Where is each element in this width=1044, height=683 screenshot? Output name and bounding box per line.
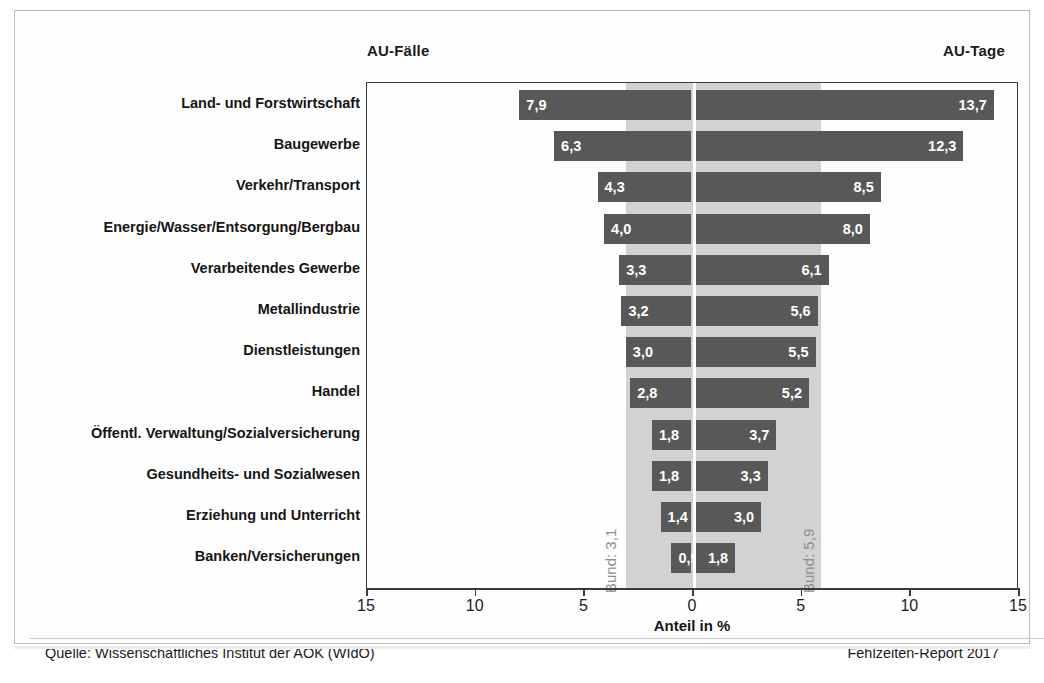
bar-au-faelle: 4,3	[598, 172, 691, 202]
bar-value-label: 3,3	[626, 262, 646, 278]
bar-value-label: 13,7	[959, 97, 987, 113]
bar-au-tage: 8,5	[696, 172, 881, 202]
bar-au-tage: 5,2	[696, 378, 809, 408]
bar-au-faelle: 1,8	[652, 461, 691, 491]
bar-au-tage: 12,3	[696, 131, 963, 161]
bar-value-label: 3,0	[633, 344, 653, 360]
chart-row: 3,25,6	[367, 296, 1017, 326]
x-axis-tick-label: 0	[688, 597, 697, 615]
bar-au-tage: 3,0	[696, 502, 761, 532]
x-axis-tick-label: 5	[796, 597, 805, 615]
bar-value-label: 3,2	[628, 303, 648, 319]
category-label: Öffentl. Verwaltung/Sozialversicherung	[15, 425, 360, 441]
bar-au-faelle: 2,8	[630, 378, 691, 408]
chart-row: 3,05,5	[367, 337, 1017, 367]
bar-au-faelle: 1,8	[652, 420, 691, 450]
x-axis-tick-label: 10	[466, 597, 484, 615]
bar-value-label: 3,3	[741, 468, 761, 484]
bar-au-tage: 1,8	[696, 543, 735, 573]
column-header-au-tage: AU-Tage	[943, 42, 1005, 59]
bar-value-label: 7,9	[526, 97, 546, 113]
x-axis-tick	[801, 588, 803, 596]
bund-caption-right: Bund: 5,9	[800, 529, 817, 593]
bar-au-faelle: 0,9	[671, 543, 691, 573]
bar-value-label: 5,5	[788, 344, 808, 360]
bar-value-label: 6,1	[801, 262, 821, 278]
bar-au-tage: 5,6	[696, 296, 818, 326]
category-label: Metallindustrie	[15, 301, 360, 317]
chart-row: 4,38,5	[367, 172, 1017, 202]
bar-au-faelle: 3,2	[621, 296, 691, 326]
bar-value-label: 12,3	[928, 138, 956, 154]
category-label: Land- und Forstwirtschaft	[15, 95, 360, 111]
bar-value-label: 4,3	[605, 179, 625, 195]
category-label: Handel	[15, 383, 360, 399]
x-axis-tick-label: 15	[1009, 597, 1027, 615]
x-axis-tick	[692, 588, 694, 596]
figure-frame: AU-Fälle AU-Tage Land- und Forstwirtscha…	[14, 10, 1030, 644]
bar-au-faelle: 3,0	[626, 337, 691, 367]
chart-row: 1,43,0	[367, 502, 1017, 532]
category-label: Gesundheits- und Sozialwesen	[15, 466, 360, 482]
bar-value-label: 1,8	[659, 468, 679, 484]
bar-au-tage: 5,5	[696, 337, 816, 367]
category-label: Banken/Versicherungen	[15, 548, 360, 564]
zero-axis-line	[693, 83, 696, 588]
bar-au-faelle: 4,0	[604, 214, 691, 244]
footer-divider	[30, 638, 1044, 639]
x-axis-title: Anteil in %	[366, 617, 1018, 634]
category-label: Erziehung und Unterricht	[15, 507, 360, 523]
chart-row: 6,312,3	[367, 131, 1017, 161]
bar-au-tage: 3,7	[696, 420, 776, 450]
x-axis-tick-label: 5	[579, 597, 588, 615]
chart-row: 2,85,2	[367, 378, 1017, 408]
chart-row: 4,08,0	[367, 214, 1017, 244]
plot-area: 7,913,76,312,34,38,54,08,03,36,13,25,63,…	[366, 82, 1018, 588]
bar-au-tage: 3,3	[696, 461, 768, 491]
x-axis-tick-label: 15	[357, 597, 375, 615]
bar-au-faelle: 1,4	[661, 502, 691, 532]
scan-edge-shadow	[14, 646, 1030, 649]
chart-row: 7,913,7	[367, 90, 1017, 120]
category-label: Dienstleistungen	[15, 342, 360, 358]
bar-au-tage: 13,7	[696, 90, 994, 120]
bar-value-label: 2,8	[637, 385, 657, 401]
bar-au-tage: 8,0	[696, 214, 870, 244]
category-label: Energie/Wasser/Entsorgung/Bergbau	[15, 219, 360, 235]
column-header-au-faelle: AU-Fälle	[367, 42, 429, 59]
bar-au-faelle: 3,3	[619, 255, 691, 285]
x-axis-tick	[583, 588, 585, 596]
bar-value-label: 5,2	[782, 385, 802, 401]
bar-value-label: 1,8	[708, 550, 728, 566]
x-axis-tick-label: 10	[900, 597, 918, 615]
bar-au-tage: 6,1	[696, 255, 829, 285]
bar-au-faelle: 6,3	[554, 131, 691, 161]
bar-value-label: 3,0	[734, 509, 754, 525]
x-axis-tick	[475, 588, 477, 596]
bar-au-faelle: 7,9	[519, 90, 691, 120]
bund-caption-left: Bund: 3,1	[602, 529, 619, 593]
chart-row: 1,83,7	[367, 420, 1017, 450]
x-axis-tick	[909, 588, 911, 596]
chart-row: 0,91,8	[367, 543, 1017, 573]
category-label: Baugewerbe	[15, 136, 360, 152]
bar-value-label: 1,4	[668, 509, 688, 525]
bar-value-label: 6,3	[561, 138, 581, 154]
bar-value-label: 5,6	[791, 303, 811, 319]
bar-value-label: 3,7	[749, 427, 769, 443]
bar-value-label: 8,0	[843, 221, 863, 237]
category-label: Verarbeitendes Gewerbe	[15, 260, 360, 276]
x-axis-tick	[366, 588, 368, 596]
chart-row: 3,36,1	[367, 255, 1017, 285]
x-axis-tick	[1018, 588, 1020, 596]
chart-row: 1,83,3	[367, 461, 1017, 491]
category-label-column: Land- und ForstwirtschaftBaugewerbeVerke…	[15, 82, 360, 588]
bar-value-label: 4,0	[611, 221, 631, 237]
bar-value-label: 8,5	[854, 179, 874, 195]
bar-value-label: 1,8	[659, 427, 679, 443]
category-label: Verkehr/Transport	[15, 177, 360, 193]
